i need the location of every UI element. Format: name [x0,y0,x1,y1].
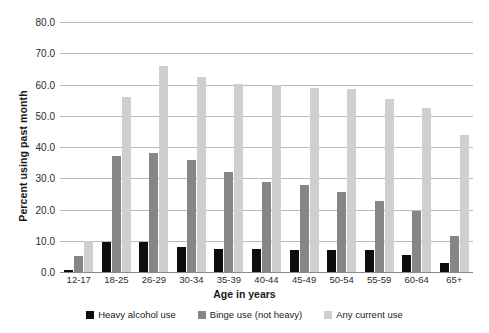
x-axis-tick-labels: 12-1718-2526-2930-3435-3940-4445-4950-54… [60,274,473,285]
bar-any-26-29 [159,66,168,272]
bar-heavy-55-59 [365,250,374,272]
bar-group-35-39 [210,22,248,272]
bar-heavy-50-54 [327,250,336,272]
bar-binge-45-49 [300,185,309,272]
y-tick-label: 0.0 [3,267,55,278]
bar-binge-40-44 [262,182,271,272]
bar-any-65+ [460,135,469,272]
x-tick-label-26-29: 26-29 [135,274,173,285]
legend-item-binge: Binge use (not heavy) [198,309,302,320]
y-tick-label: 70.0 [3,48,55,59]
bar-heavy-40-44 [252,249,261,272]
bar-heavy-26-29 [139,242,148,272]
bar-any-18-25 [122,97,131,272]
bar-heavy-60-64 [402,255,411,272]
x-tick-label-45-49: 45-49 [285,274,323,285]
x-tick-label-40-44: 40-44 [248,274,286,285]
bar-group-12-17 [60,22,98,272]
bar-heavy-12-17 [64,270,73,272]
bar-heavy-35-39 [214,249,223,272]
bar-group-50-54 [323,22,361,272]
chart-legend: Heavy alcohol useBinge use (not heavy)An… [0,309,489,320]
bar-binge-55-59 [375,201,384,272]
bar-any-60-64 [422,108,431,272]
y-tick-label: 10.0 [3,235,55,246]
x-tick-label-12-17: 12-17 [60,274,98,285]
bar-any-30-34 [197,77,206,272]
bar-any-55-59 [385,99,394,272]
y-tick-label: 80.0 [3,17,55,28]
bar-binge-18-25 [112,156,121,272]
y-tick-label: 20.0 [3,204,55,215]
legend-swatch-icon-binge [198,311,206,319]
bar-binge-60-64 [412,211,421,272]
legend-label: Heavy alcohol use [98,309,176,320]
legend-label: Binge use (not heavy) [210,309,302,320]
x-tick-label-18-25: 18-25 [98,274,136,285]
bar-heavy-45-49 [290,250,299,272]
bar-group-26-29 [135,22,173,272]
bar-any-40-44 [272,85,281,273]
bar-binge-12-17 [74,256,83,272]
bar-any-45-49 [310,88,319,272]
y-tick-label: 60.0 [3,79,55,90]
x-tick-label-60-64: 60-64 [398,274,436,285]
bar-binge-35-39 [224,172,233,272]
bar-any-12-17 [84,241,93,272]
bar-group-65+ [435,22,473,272]
bars-layer [60,22,473,272]
x-tick-label-35-39: 35-39 [210,274,248,285]
bar-any-50-54 [347,89,356,272]
x-axis-line [60,272,473,273]
x-tick-label-50-54: 50-54 [323,274,361,285]
x-tick-label-65+: 65+ [435,274,473,285]
x-tick-label-55-59: 55-59 [360,274,398,285]
bar-binge-50-54 [337,192,346,272]
legend-item-heavy: Heavy alcohol use [86,309,176,320]
x-tick-label-30-34: 30-34 [173,274,211,285]
bar-binge-65+ [450,236,459,272]
bar-chart: Percent using past month 80.070.060.050.… [0,0,489,333]
bar-heavy-18-25 [102,242,111,272]
bar-heavy-30-34 [177,247,186,272]
y-axis-tick-labels: 80.070.060.050.040.030.020.010.00.0 [0,22,55,272]
bar-heavy-65+ [440,263,449,272]
bar-any-35-39 [234,84,243,272]
x-axis-title: Age in years [0,288,489,300]
y-tick-label: 50.0 [3,110,55,121]
legend-swatch-icon-any [324,311,332,319]
y-tick-label: 30.0 [3,173,55,184]
legend-item-any: Any current use [324,309,403,320]
y-tick-label: 40.0 [3,142,55,153]
bar-group-30-34 [173,22,211,272]
bar-group-45-49 [285,22,323,272]
legend-swatch-icon-heavy [86,311,94,319]
legend-label: Any current use [336,309,403,320]
bar-group-40-44 [248,22,286,272]
bar-group-60-64 [398,22,436,272]
bar-binge-26-29 [149,153,158,272]
bar-binge-30-34 [187,160,196,273]
bar-group-18-25 [98,22,136,272]
bar-group-55-59 [360,22,398,272]
